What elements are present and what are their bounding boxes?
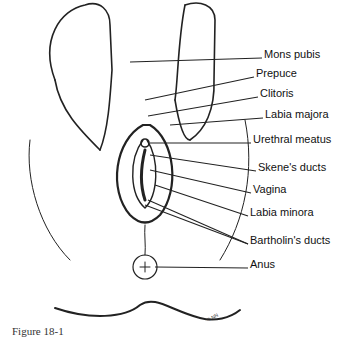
label-anus: Anus bbox=[250, 258, 275, 270]
label-labia-majora: Labia majora bbox=[265, 108, 329, 120]
label-labia-minora: Labia minora bbox=[250, 206, 314, 218]
label-bartholins-ducts: Bartholin's ducts bbox=[250, 234, 330, 246]
label-clitoris: Clitoris bbox=[260, 87, 294, 99]
label-urethral-meatus: Urethral meatus bbox=[253, 133, 331, 145]
copyright-mark: © NN bbox=[206, 311, 220, 323]
label-mons-pubis: Mons pubis bbox=[264, 48, 320, 60]
label-vagina: Vagina bbox=[253, 183, 286, 195]
label-skenes-ducts: Skene's ducts bbox=[258, 161, 326, 173]
label-prepuce: Prepuce bbox=[256, 67, 297, 79]
figure-caption: Figure 18-1 bbox=[12, 325, 64, 337]
